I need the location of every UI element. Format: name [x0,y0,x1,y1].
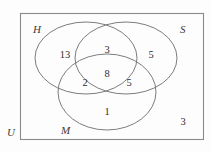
universal-set-label: U [7,126,16,138]
region-count-s-and-m: 5 [126,77,131,88]
universal-set-rectangle [21,14,204,140]
region-count-s-only: 5 [148,49,153,60]
set-label-m: M [60,124,71,136]
region-count-h-and-s: 3 [104,44,109,55]
region-count-h-and-m: 2 [82,77,87,88]
region-count-h-only: 13 [60,49,71,60]
venn-canvas: H S M U 13 5 1 3 2 5 8 3 [0,0,211,152]
region-count-m-only: 1 [104,106,109,117]
region-count-all-three: 8 [104,68,109,79]
region-count-outside: 3 [180,116,185,127]
set-label-h: H [32,23,42,35]
set-label-s: S [180,23,186,35]
venn-diagram: H S M U 13 5 1 3 2 5 8 3 [0,0,211,152]
